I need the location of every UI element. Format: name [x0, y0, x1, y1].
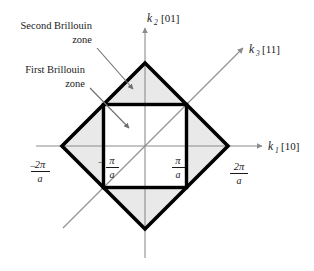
brillouin-zone-figure: Second Brillouin zone First Brillouin zo…: [0, 0, 314, 271]
second-zone-callout-line2: zone: [72, 34, 92, 45]
k1-axis-symbol: k: [268, 140, 274, 152]
k2-axis-symbol: k: [147, 12, 153, 24]
k1-axis-subscript: 1: [275, 146, 279, 155]
k2-axis-subscript: 2: [154, 18, 158, 27]
tick-pi-numerator: π: [175, 155, 181, 166]
tick-neg2pi-denominator: a: [38, 173, 43, 184]
k3-axis-symbol: k: [249, 43, 255, 55]
k1-axis-direction: [10]: [281, 140, 299, 152]
tick-negpi-numerator: π: [109, 155, 115, 166]
first-zone-callout-line1: First Brillouin: [25, 64, 86, 75]
k3-axis-direction: [11]: [262, 43, 280, 55]
tick-pi-denominator: a: [176, 169, 181, 180]
tick-2pi-numerator: 2π: [234, 161, 245, 172]
tick-negpi-denominator: a: [110, 169, 115, 180]
tick-neg2pi-numerator: 2π: [35, 159, 46, 170]
tick-negpi-sign: −: [98, 157, 104, 168]
first-zone-callout-line2: zone: [65, 78, 85, 89]
k2-axis-direction: [01]: [161, 12, 179, 24]
second-zone-callout-line1: Second Brillouin: [21, 20, 93, 31]
tick-2pi-denominator: a: [237, 175, 242, 186]
brillouin-zone-diagram: Second Brillouin zone First Brillouin zo…: [0, 0, 314, 271]
k3-axis-subscript: 3: [255, 49, 260, 58]
